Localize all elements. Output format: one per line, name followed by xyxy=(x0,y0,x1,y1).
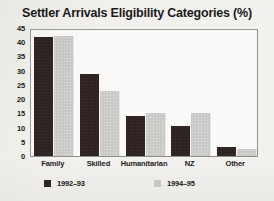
bar xyxy=(146,113,166,156)
y-tick-label: 45 xyxy=(17,25,25,33)
chart-title: Settler Arrivals Eligibility Categories … xyxy=(0,6,274,20)
x-tick-label: Skilled xyxy=(87,160,110,168)
legend-item: 1994–95 xyxy=(154,180,195,188)
bar xyxy=(126,116,145,156)
plot-area xyxy=(30,29,258,157)
y-tick-label: 15 xyxy=(17,111,25,119)
bar xyxy=(100,91,120,156)
x-axis-labels: FamilySkilledHumanitarianNZOther xyxy=(30,160,258,172)
x-tick-label: Family xyxy=(41,160,64,168)
bar xyxy=(237,149,257,156)
y-tick-label: 10 xyxy=(17,125,25,133)
bar xyxy=(34,37,53,156)
bar xyxy=(80,74,99,156)
y-tick-label: 40 xyxy=(17,39,25,47)
bar-group xyxy=(217,30,256,156)
y-axis: 454035302520151050 xyxy=(0,29,28,157)
bar-group xyxy=(171,30,210,156)
y-tick-label: 0 xyxy=(21,153,25,161)
legend-swatch-icon xyxy=(44,180,51,187)
bar-group xyxy=(80,30,119,156)
legend-label: 1994–95 xyxy=(167,180,195,188)
legend-swatch-icon xyxy=(154,180,161,187)
legend-label: 1992–93 xyxy=(57,180,85,188)
bar-group xyxy=(34,30,73,156)
bar xyxy=(171,126,190,156)
bar xyxy=(191,113,211,156)
bars-container xyxy=(31,30,257,156)
y-tick-label: 5 xyxy=(21,139,25,147)
chart-page: Settler Arrivals Eligibility Categories … xyxy=(0,0,274,201)
y-tick-label: 30 xyxy=(17,68,25,76)
y-tick-label: 35 xyxy=(17,54,25,62)
bar xyxy=(217,147,236,156)
legend-item: 1992–93 xyxy=(44,180,85,188)
bar xyxy=(54,36,74,156)
y-tick-label: 20 xyxy=(17,96,25,104)
y-tick-label: 25 xyxy=(17,82,25,90)
x-tick-label: NZ xyxy=(185,160,195,168)
bar-group xyxy=(126,30,165,156)
legend: 1992–931994–95 xyxy=(30,180,258,192)
x-tick-label: Humanitarian xyxy=(121,160,168,168)
x-tick-label: Other xyxy=(225,160,245,168)
